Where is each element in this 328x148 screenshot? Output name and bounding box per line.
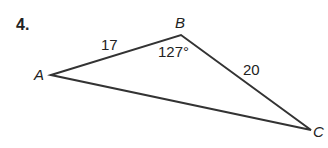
- side-ab-length: 17: [101, 36, 118, 53]
- triangle-figure: [0, 0, 328, 148]
- side-bc-length: 20: [243, 61, 260, 78]
- vertex-b-label: B: [175, 14, 185, 31]
- angle-b-measure: 127°: [158, 43, 189, 60]
- vertex-a-label: A: [34, 66, 44, 83]
- vertex-c-label: C: [313, 123, 324, 140]
- problem-number: 4.: [16, 16, 29, 34]
